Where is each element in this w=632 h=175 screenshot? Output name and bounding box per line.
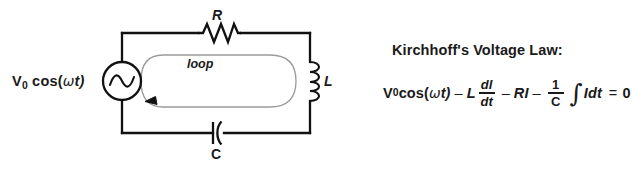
resistor-label: R bbox=[212, 8, 222, 22]
circuit-wires bbox=[122, 33, 310, 133]
capacitor-symbol bbox=[213, 122, 222, 145]
inductor-label: L bbox=[324, 74, 333, 88]
eq-minus-2: – bbox=[502, 85, 510, 101]
eq-didt-denominator: dt bbox=[480, 94, 492, 108]
resistor-zigzag bbox=[198, 24, 241, 42]
eq-equals-sign: = bbox=[609, 85, 618, 101]
loop-path-group bbox=[141, 55, 296, 107]
source-omega-symbol: ω bbox=[63, 73, 75, 89]
rlc-circuit-figure: V0 cos(ωt) R L C loop Kirchhoff's Voltag… bbox=[0, 0, 632, 175]
eq-omega-symbol: ω bbox=[429, 85, 441, 101]
eq-inductance-symbol: L bbox=[467, 85, 476, 101]
eq-resistive-term: RI bbox=[514, 85, 529, 101]
resistor-symbol bbox=[198, 24, 241, 42]
eq-minus-3: – bbox=[533, 85, 541, 101]
kvl-title: Kirchhoff's Voltage Law: bbox=[392, 43, 563, 58]
loop-label: loop bbox=[187, 58, 213, 71]
eq-one-over-c-fraction: 1 C bbox=[548, 78, 564, 108]
source-cos-open: cos( bbox=[28, 73, 63, 89]
kvl-equation: V0 cos(ωt) – L dI dt – RI – 1 C ∫ Idt = … bbox=[383, 78, 631, 108]
inductor-coil bbox=[310, 62, 319, 101]
eq-minus-1: – bbox=[455, 85, 463, 101]
loop-path bbox=[141, 55, 296, 107]
eq-cos-close: t) bbox=[441, 85, 451, 101]
eq-didt-fraction: dI dt bbox=[479, 78, 495, 108]
eq-v-symbol: V bbox=[383, 85, 393, 101]
source-v-symbol: V bbox=[12, 73, 22, 89]
eq-integral-icon: ∫ bbox=[570, 87, 583, 101]
eq-source-term: V0 cos(ωt) bbox=[383, 85, 451, 101]
eq-cos-open: cos( bbox=[399, 85, 429, 101]
eq-didt-numerator: dI bbox=[481, 78, 493, 92]
capacitor-label: C bbox=[211, 147, 221, 161]
eq-oneoverc-numerator: 1 bbox=[552, 78, 559, 92]
eq-zero: 0 bbox=[622, 85, 630, 101]
loop-direction-arrowhead bbox=[145, 97, 157, 105]
source-cos-close: t) bbox=[75, 73, 85, 89]
capacitor-plate-curved bbox=[217, 122, 221, 145]
source-voltage-label: V0 cos(ωt) bbox=[12, 74, 85, 92]
eq-oneoverc-denominator: C bbox=[551, 94, 561, 108]
ac-source-symbol bbox=[103, 62, 141, 100]
eq-integrand: Idt bbox=[584, 85, 602, 101]
inductor-symbol bbox=[310, 62, 319, 101]
